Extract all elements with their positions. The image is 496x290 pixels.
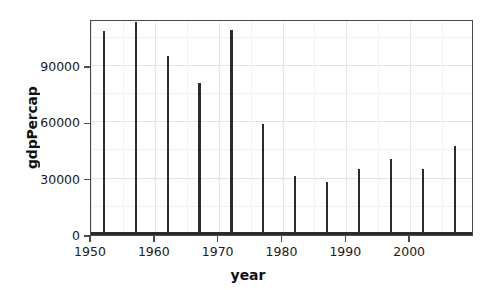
x-axis-tick-mark <box>345 236 347 242</box>
y-axis-tick-label: 90000 <box>40 58 80 76</box>
x-axis-tick-mark <box>153 236 155 242</box>
x-axis-tick-mark <box>89 236 91 242</box>
x-axis-tick-label: 2000 <box>393 244 425 259</box>
y-axis-title: gdpPercap <box>24 78 42 178</box>
x-axis-tick-label: 1960 <box>138 244 170 259</box>
x-axis-tick-mark <box>408 236 410 242</box>
x-axis-tick-label: 1970 <box>202 244 234 259</box>
y-axis-tick-mark <box>84 123 90 125</box>
plot-area <box>90 20 473 236</box>
y-axis-tick-label: 30000 <box>40 171 80 189</box>
zero-baseline <box>91 232 472 235</box>
y-axis-tick-label: 60000 <box>40 114 80 132</box>
bar <box>294 176 296 235</box>
bar <box>230 30 232 235</box>
bar <box>198 83 200 235</box>
x-axis-tick-label: 1980 <box>266 244 298 259</box>
x-axis-tick-label: 1990 <box>329 244 361 259</box>
chart-figure: 0300006000090000 gdpPercap 1950196019701… <box>0 0 496 290</box>
x-axis-title: year <box>0 267 496 283</box>
bar <box>262 124 264 235</box>
y-axis-tick-mark <box>84 66 90 68</box>
x-axis-tick-mark <box>281 236 283 242</box>
x-axis-tick-label: 1950 <box>74 244 106 259</box>
bar <box>103 31 105 235</box>
bar <box>167 56 169 235</box>
x-axis-tick-mark <box>217 236 219 242</box>
bar <box>326 182 328 235</box>
bars-container <box>91 21 472 235</box>
bar <box>135 22 137 235</box>
bar <box>422 169 424 235</box>
bar <box>358 169 360 235</box>
bar <box>390 159 392 235</box>
bar <box>454 146 456 235</box>
y-axis-tick-mark <box>84 179 90 181</box>
